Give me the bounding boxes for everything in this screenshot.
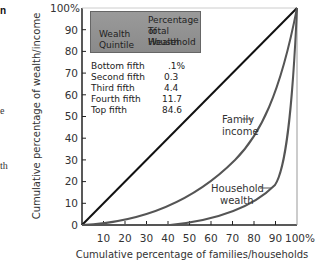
x-tick-label: 100%: [285, 232, 315, 244]
family-income-label: income: [222, 126, 259, 137]
legend-col2-header: Wealth: [148, 37, 179, 48]
legend-row-label: Bottom fifth: [91, 61, 145, 71]
y-tick-label: 70: [65, 67, 78, 79]
x-tick-label: 20: [118, 232, 131, 244]
legend-row-value: 84.6: [162, 105, 182, 115]
legend-row-value: 0.3: [164, 72, 178, 82]
legend-row-value: 4.4: [164, 83, 178, 93]
y-axis-label: Cumulative percentage of wealth/income: [31, 13, 42, 220]
y-tick-label: 50: [65, 110, 78, 122]
y-tick-label: 20: [65, 175, 78, 187]
legend-row-label: Third fifth: [91, 83, 135, 93]
x-tick-label: 50: [183, 232, 196, 244]
x-tick-label: 70: [226, 232, 239, 244]
x-tick-label: 90: [269, 232, 282, 244]
legend-header: Wealth Quintile Percentage of Total Hous…: [90, 11, 201, 53]
y-tick-label: 90: [65, 24, 78, 36]
legend-row-value: .1%: [168, 61, 185, 71]
legend-row-value: 11.7: [162, 94, 182, 104]
x-axis-label: Cumulative percentage of families/househ…: [76, 249, 309, 260]
y-tick-label: 40: [65, 132, 78, 144]
x-tick-label: 30: [140, 232, 153, 244]
legend-col1-header: Quintile: [99, 40, 134, 51]
x-tick-label: 40: [161, 232, 174, 244]
x-tick-label: 60: [204, 232, 217, 244]
y-tick-label: 30: [65, 154, 78, 166]
y-tick-label: 10: [65, 197, 78, 209]
y-tick-label: 80: [65, 45, 78, 57]
household-wealth-label: Household: [211, 183, 264, 194]
legend-row-label: Second fifth: [91, 72, 145, 82]
y-tick-label: 100%: [50, 2, 80, 14]
legend-row-label: Top fifth: [91, 105, 127, 115]
y-tick-label: 0: [71, 219, 78, 231]
legend-col1-header: Wealth: [99, 29, 130, 40]
household-wealth-label: wealth: [220, 195, 254, 206]
legend-row-label: Fourth fifth: [91, 94, 141, 104]
x-tick-label: 80: [247, 232, 260, 244]
y-tick-label: 60: [65, 89, 78, 101]
x-tick-label: 10: [97, 232, 110, 244]
